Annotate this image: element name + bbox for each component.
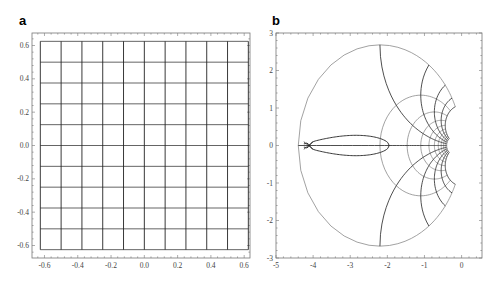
y-tick-label: 0 bbox=[269, 141, 273, 150]
x-tick-label: 0.4 bbox=[206, 261, 216, 270]
x-tick-label: -0.2 bbox=[105, 261, 117, 270]
y-tick-label: -0.2 bbox=[17, 174, 29, 183]
panel-b-conformal-map: -5-4-3-2-10-3-2-10123 bbox=[267, 29, 482, 271]
y-tick-label: 0.6 bbox=[20, 41, 30, 50]
y-tick-label: 0.4 bbox=[20, 74, 30, 83]
airfoil-lower bbox=[304, 143, 389, 156]
x-tick-label: 0.6 bbox=[239, 261, 249, 270]
dark-curve bbox=[445, 152, 455, 184]
x-tick-label: -3 bbox=[347, 261, 353, 270]
x-tick-label: 0 bbox=[460, 261, 464, 270]
y-tick-label: -1 bbox=[267, 179, 273, 188]
panel-a-square-grid: -0.6-0.4-0.20.00.20.40.6-0.6-0.4-0.20.00… bbox=[17, 33, 250, 270]
x-tick-label: -4 bbox=[310, 261, 316, 270]
y-tick-label: 0.2 bbox=[20, 108, 30, 117]
x-tick-label: -1 bbox=[421, 261, 427, 270]
dark-curve bbox=[445, 107, 455, 139]
y-tick-label: 1 bbox=[269, 104, 273, 113]
y-tick-label: 3 bbox=[269, 29, 273, 38]
x-tick-label: 0.0 bbox=[140, 261, 150, 270]
figure-canvas: -0.6-0.4-0.20.00.20.40.6-0.6-0.4-0.20.00… bbox=[0, 0, 497, 282]
x-tick-label: -2 bbox=[384, 261, 390, 270]
x-tick-label: 0.2 bbox=[173, 261, 183, 270]
airfoil-upper bbox=[304, 135, 389, 148]
y-tick-label: 2 bbox=[269, 66, 273, 75]
x-tick-label: -5 bbox=[273, 261, 279, 270]
y-tick-label: -2 bbox=[267, 216, 273, 225]
y-tick-label: -3 bbox=[267, 254, 273, 263]
x-tick-label: -0.4 bbox=[72, 261, 84, 270]
y-tick-label: -0.6 bbox=[17, 241, 29, 250]
y-tick-label: -0.4 bbox=[17, 208, 29, 217]
y-tick-label: 0.0 bbox=[20, 141, 30, 150]
x-tick-label: -0.6 bbox=[39, 261, 51, 270]
dark-curve bbox=[380, 45, 447, 144]
dark-curve bbox=[380, 147, 447, 246]
